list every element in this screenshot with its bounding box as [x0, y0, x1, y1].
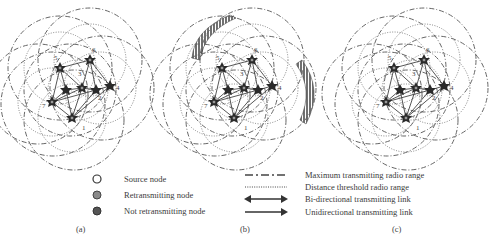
legend-retransmitting-node: Retransmitting node — [124, 190, 193, 200]
panel-label-a: (a) — [76, 224, 85, 234]
legend-threshold-range: Distance threshold radio range — [305, 182, 409, 192]
panel-c-network — [322, 8, 488, 170]
source-node-icon — [93, 175, 101, 183]
legend-bidirectional-link: Bi-directional transmitting link — [305, 194, 411, 204]
single-arrow-icon — [245, 208, 288, 216]
double-arrow-icon — [244, 195, 288, 203]
hatched-region-right — [296, 60, 314, 124]
network-figure: 5 4 7 2 3 1 6 — [0, 0, 498, 243]
retransmitting-node-icon — [93, 191, 101, 199]
legend-source-node: Source node — [124, 174, 166, 184]
panel-label-b: (b) — [240, 224, 250, 234]
panel-b-network — [150, 8, 316, 170]
panel-label-c: (c) — [392, 224, 401, 234]
legend-max-range: Maximum transmitting radio range — [305, 170, 424, 180]
legend-not-retransmitting-node: Not retransmitting node — [124, 206, 205, 216]
panel-a-network — [0, 8, 154, 170]
legend-unidirectional-link: Unidirectional transmitting link — [305, 207, 413, 217]
not-retransmitting-node-icon — [93, 207, 101, 215]
